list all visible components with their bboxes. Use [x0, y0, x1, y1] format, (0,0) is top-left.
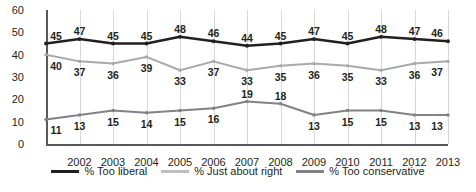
- y-tick-label: 50: [0, 27, 24, 38]
- data-label: 45: [107, 31, 119, 42]
- data-label: 37: [208, 67, 220, 78]
- data-point-marker: [346, 64, 349, 67]
- data-label: 47: [308, 26, 320, 37]
- data-point-marker: [111, 62, 114, 65]
- data-point-marker: [379, 109, 382, 112]
- data-label: 13: [74, 121, 86, 132]
- data-point-marker: [78, 113, 81, 116]
- data-point-marker: [312, 113, 315, 116]
- data-point-marker: [312, 62, 315, 65]
- data-point-marker: [413, 62, 416, 65]
- data-label: 13: [431, 121, 443, 132]
- data-label: 46: [431, 28, 443, 39]
- data-label: 40: [50, 61, 62, 72]
- data-point-marker: [78, 60, 81, 63]
- legend-swatch-icon: [296, 170, 324, 173]
- data-label: 47: [74, 26, 86, 37]
- data-label: 18: [275, 91, 287, 102]
- data-point-marker: [111, 109, 114, 112]
- data-point-marker: [245, 44, 249, 48]
- data-label: 45: [50, 31, 62, 42]
- legend-label: % Too liberal: [84, 166, 147, 177]
- data-label: 35: [342, 72, 354, 83]
- data-point-marker: [446, 113, 449, 116]
- data-label: 13: [308, 121, 320, 132]
- data-label: 45: [141, 31, 153, 42]
- legend-label: % Too conservative: [329, 166, 424, 177]
- data-point-marker: [44, 53, 47, 56]
- data-label: 14: [141, 119, 153, 130]
- data-point-marker: [178, 35, 182, 39]
- data-point-marker: [111, 42, 115, 46]
- line-chart: 0102030405060 45474545484644454745484746…: [0, 0, 476, 192]
- data-point-marker: [212, 39, 216, 43]
- y-tick-label: 10: [0, 117, 24, 128]
- data-point-marker: [312, 37, 316, 41]
- gridline: [448, 10, 449, 144]
- data-point-marker: [413, 37, 417, 41]
- data-label: 44: [241, 33, 253, 44]
- data-point-marker: [145, 55, 148, 58]
- data-point-marker: [44, 118, 47, 121]
- data-label: 33: [174, 76, 186, 87]
- data-label: 36: [107, 70, 119, 81]
- data-point-marker: [413, 113, 416, 116]
- data-point-marker: [279, 64, 282, 67]
- data-label: 13: [409, 121, 421, 132]
- data-point-marker: [245, 100, 248, 103]
- data-point-marker: [145, 111, 148, 114]
- data-label: 37: [74, 67, 86, 78]
- data-label: 36: [409, 70, 421, 81]
- y-tick-label: 40: [0, 50, 24, 61]
- data-label: 35: [275, 72, 287, 83]
- data-label: 39: [141, 63, 153, 74]
- data-label: 37: [431, 67, 443, 78]
- data-point-marker: [379, 69, 382, 72]
- legend-swatch-icon: [51, 170, 79, 173]
- y-tick-label: 60: [0, 5, 24, 16]
- data-label: 36: [308, 70, 320, 81]
- data-label: 19: [241, 89, 253, 100]
- legend-swatch-icon: [161, 170, 189, 173]
- y-tick-label: 0: [0, 139, 24, 150]
- data-label: 15: [342, 117, 354, 128]
- data-label: 45: [342, 31, 354, 42]
- data-point-marker: [379, 35, 383, 39]
- data-label: 11: [50, 125, 61, 136]
- y-tick-label: 20: [0, 94, 24, 105]
- legend-label: % Just about right: [194, 166, 282, 177]
- x-axis-line: [46, 144, 448, 146]
- data-label: 33: [375, 76, 387, 87]
- data-point-marker: [145, 42, 149, 46]
- data-label: 48: [174, 24, 186, 35]
- data-label: 15: [375, 117, 387, 128]
- data-label: 16: [208, 114, 220, 125]
- legend-item[interactable]: % Just about right: [161, 166, 282, 177]
- data-point-marker: [446, 60, 449, 63]
- data-point-marker: [178, 69, 181, 72]
- chart-legend: % Too liberal% Just about right% Too con…: [0, 166, 476, 177]
- data-point-marker: [346, 109, 349, 112]
- data-label: 15: [174, 117, 186, 128]
- data-label: 46: [208, 28, 220, 39]
- data-label: 15: [107, 117, 119, 128]
- y-tick-label: 30: [0, 72, 24, 83]
- data-point-marker: [212, 60, 215, 63]
- legend-item[interactable]: % Too liberal: [51, 166, 147, 177]
- data-point-marker: [178, 109, 181, 112]
- plot-area: 4547454548464445474548474640373639333733…: [46, 10, 448, 144]
- legend-item[interactable]: % Too conservative: [296, 166, 424, 177]
- data-label: 33: [241, 76, 253, 87]
- data-point-marker: [212, 107, 215, 110]
- data-point-marker: [279, 102, 282, 105]
- data-point-marker: [78, 37, 82, 41]
- data-point-marker: [279, 42, 283, 46]
- data-point-marker: [346, 42, 350, 46]
- data-label: 48: [375, 24, 387, 35]
- data-label: 45: [275, 31, 287, 42]
- data-label: 47: [409, 26, 421, 37]
- data-point-marker: [245, 69, 248, 72]
- data-point-marker: [44, 42, 48, 46]
- data-point-marker: [446, 39, 450, 43]
